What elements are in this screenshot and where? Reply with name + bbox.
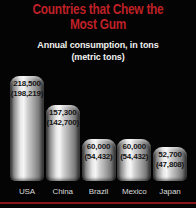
bar-mexico: 60,000 (54,432): [117, 139, 151, 181]
chart-title-line2: Most Gum: [15, 17, 182, 32]
chart-title-line1: Countries that Chew the: [15, 2, 182, 17]
chart-subtitle-line1: Annual consumption, in tons: [0, 40, 196, 52]
bar-usa-tons: 218,500: [6, 79, 48, 89]
bar-china-tons: 157,300: [42, 108, 84, 118]
bar-usa-values: 218,500 (198,219): [6, 79, 48, 99]
bar-usa-metric: (198,219): [6, 89, 48, 99]
bar-japan-metric: (47,808): [149, 160, 191, 170]
x-label-mexico: Mexico: [117, 187, 151, 197]
bar-china: 157,300 (142,700): [46, 105, 80, 181]
bar-japan: 52,700 (47,808): [153, 147, 187, 181]
chart-subtitle-line2: (metric tons): [0, 52, 196, 64]
bar-china-values: 157,300 (142,700): [42, 108, 84, 128]
x-axis-labels: USA China Brazil Mexico Japan: [10, 187, 187, 197]
bottom-red-rule: [0, 202, 196, 204]
x-label-japan: Japan: [153, 187, 187, 197]
bar-group: 218,500 (198,219) 157,300 (142,700) 60,0…: [10, 76, 187, 181]
chart-subtitle: Annual consumption, in tons (metric tons…: [0, 40, 196, 63]
bar-japan-tons: 52,700: [149, 150, 191, 160]
bar-china-metric: (142,700): [42, 118, 84, 128]
bar-usa: 218,500 (198,219): [10, 76, 44, 181]
x-label-brazil: Brazil: [82, 187, 116, 197]
bar-brazil: 60,000 (54,432): [82, 139, 116, 181]
chart-title: Countries that Chew the Most Gum: [0, 2, 196, 32]
bar-japan-values: 52,700 (47,808): [149, 150, 191, 170]
x-label-usa: USA: [10, 187, 44, 197]
x-label-china: China: [46, 187, 80, 197]
gum-consumption-chart: Countries that Chew the Most Gum Annual …: [0, 0, 196, 208]
